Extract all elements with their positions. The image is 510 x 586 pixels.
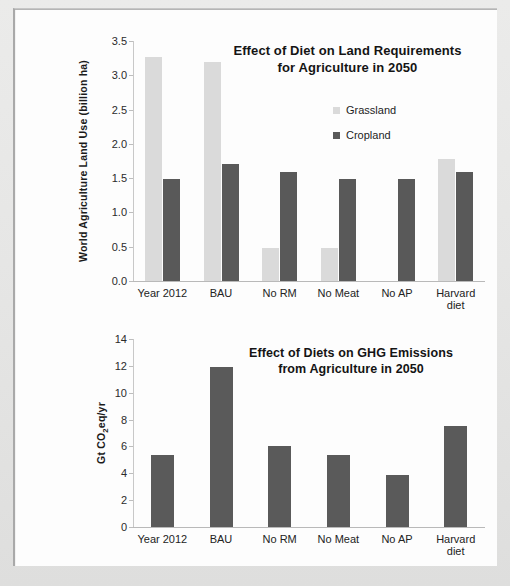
- legend-item: Cropland: [333, 129, 396, 141]
- bar-cropland: [280, 172, 297, 281]
- bar-grassland: [145, 57, 162, 281]
- x-axis-line: [133, 527, 485, 528]
- y-axis-tick-label: 14: [99, 333, 127, 345]
- y-axis-tick-label: 8: [99, 414, 127, 426]
- x-axis-tick-label: No AP: [368, 533, 427, 558]
- legend-item: Grassland: [333, 104, 396, 116]
- legend-swatch-cropland: [333, 132, 340, 139]
- y-axis-tick-label: 0: [99, 521, 127, 533]
- bar-cropland: [163, 179, 180, 281]
- bar-group: [133, 339, 192, 527]
- x-axis-tick-label: No Meat: [309, 287, 368, 312]
- bar-group: [426, 41, 485, 281]
- bar-ghg-emissions: [268, 446, 291, 527]
- bar-cropland: [339, 179, 356, 281]
- y-axis-tick-label: 0.0: [99, 275, 127, 287]
- bar-ghg-emissions: [151, 455, 174, 527]
- bar-group: [250, 41, 309, 281]
- bar-ghg-emissions: [386, 475, 409, 527]
- y-axis-tick-label: 2.5: [99, 104, 127, 116]
- bar-cropland: [398, 179, 415, 281]
- x-axis-tick-label: Year 2012: [133, 287, 192, 312]
- chart-legend: GrasslandCropland: [333, 104, 396, 154]
- bar-grassland: [321, 248, 338, 281]
- y-axis-tick-label: 1.0: [99, 206, 127, 218]
- y-axis-title: World Agriculture Land Use (billion ha): [77, 41, 89, 281]
- x-axis-tick-label: No Meat: [309, 533, 368, 558]
- y-axis-tick-label: 6: [99, 440, 127, 452]
- x-axis-tick-label: No RM: [250, 533, 309, 558]
- y-axis-tick-label: 10: [99, 387, 127, 399]
- bar-group: [133, 41, 192, 281]
- x-axis-labels: Year 2012BAUNo RMNo MeatNo APHarvarddiet: [133, 533, 485, 558]
- y-axis-tick-label: 12: [99, 360, 127, 372]
- bar-cropland: [222, 164, 239, 281]
- bar-ghg-emissions: [210, 367, 233, 527]
- x-axis-tick-label: Harvarddiet: [426, 287, 485, 312]
- bar-group: [309, 41, 368, 281]
- chart-ghg-emissions: Gt CO2eq/yr02468101214Year 2012BAUNo RMN…: [15, 319, 497, 567]
- bar-grassland: [262, 248, 279, 281]
- bar-ghg-emissions: [327, 455, 350, 527]
- x-axis-tick-label: Year 2012: [133, 533, 192, 558]
- x-axis-tick-label: No RM: [250, 287, 309, 312]
- x-axis-tick-label: No AP: [368, 287, 427, 312]
- x-axis-tick-label: BAU: [192, 287, 251, 312]
- x-axis-tick-label: Harvarddiet: [426, 533, 485, 558]
- bar-group-container: [133, 41, 485, 281]
- x-axis-tick-label: BAU: [192, 533, 251, 558]
- bar-grassland: [438, 159, 455, 281]
- y-axis-tick-label: 2.0: [99, 138, 127, 150]
- x-axis-labels: Year 2012BAUNo RMNo MeatNo APHarvarddiet: [133, 287, 485, 312]
- chart-land-use: World Agriculture Land Use (billion ha)0…: [15, 23, 497, 313]
- y-axis-tick-label: 3.5: [99, 35, 127, 47]
- y-axis-tick-label: 0.5: [99, 241, 127, 253]
- document-page: World Agriculture Land Use (billion ha)0…: [13, 8, 497, 566]
- bar-group: [192, 41, 251, 281]
- bar-grassland: [204, 62, 221, 281]
- bar-ghg-emissions: [444, 426, 467, 527]
- legend-label-cropland: Cropland: [346, 129, 391, 141]
- chart-title: Effect of Diet on Land Requirementsfor A…: [210, 43, 485, 77]
- y-axis-tick-label: 4: [99, 467, 127, 479]
- y-axis-tick-label: 1.5: [99, 172, 127, 184]
- bar-cropland: [456, 172, 473, 281]
- legend-swatch-grassland: [333, 107, 340, 114]
- legend-label-grassland: Grassland: [346, 104, 396, 116]
- page-background: World Agriculture Land Use (billion ha)0…: [0, 0, 510, 586]
- y-axis-tick-label: 2: [99, 494, 127, 506]
- x-axis-line: [133, 281, 485, 282]
- bar-group: [368, 41, 427, 281]
- y-axis-tick-label: 3.0: [99, 69, 127, 81]
- chart-title: Effect of Diets on GHG Emissionsfrom Agr…: [220, 345, 482, 378]
